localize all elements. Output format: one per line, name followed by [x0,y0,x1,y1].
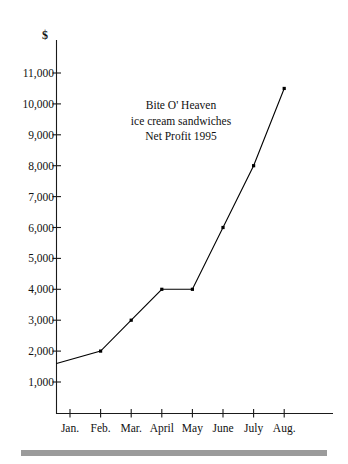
y-axis-tick-label: 9,000 [8,129,54,141]
chart-title-line-3: Net Profit 1995 [96,129,266,145]
y-axis-tick-label: 11,000 [8,67,54,79]
x-axis-tick-label: July [244,422,263,435]
chart-title: Bite O' Heaven ice cream sandwiches Net … [96,98,266,145]
y-axis-tick-label: 1,000 [8,376,54,388]
data-point-marker [191,288,194,291]
data-point-marker [252,164,255,167]
data-point-marker [160,288,163,291]
plot-area: $ 1,0002,0003,0004,0005,0006,0007,0008,0… [0,0,348,464]
x-axis-tick-label: April [150,422,174,435]
chart-title-line-2: ice cream sandwiches [96,114,266,130]
data-point-marker [221,226,224,229]
x-axis-tick-label: Aug. [273,422,296,435]
y-axis-tick-label: 4,000 [8,283,54,295]
x-axis-tick-label: Mar. [120,422,141,435]
y-axis-tick-label: 3,000 [8,314,54,326]
chart-title-line-1: Bite O' Heaven [96,98,266,114]
y-axis-tick-label: 5,000 [8,252,54,264]
chart-figure: $ 1,0002,0003,0004,0005,0006,0007,0008,0… [0,0,348,464]
data-point-marker [99,350,102,353]
y-axis-tick-label: 10,000 [8,98,54,110]
y-axis-tick-label: 6,000 [8,222,54,234]
y-axis-currency-label: $ [22,28,48,42]
y-axis-tick-label: 2,000 [8,345,54,357]
x-axis-tick-label: Jan. [61,422,79,435]
x-axis-tick-label: Feb. [91,422,111,435]
y-axis-tick-label: 7,000 [8,191,54,203]
x-axis-tick-label: May [182,422,203,435]
data-point-marker [130,319,133,322]
x-axis-tick-label: June [212,422,233,435]
data-point-marker [283,87,286,90]
bottom-rule [21,450,327,456]
y-axis-tick-label: 8,000 [8,160,54,172]
